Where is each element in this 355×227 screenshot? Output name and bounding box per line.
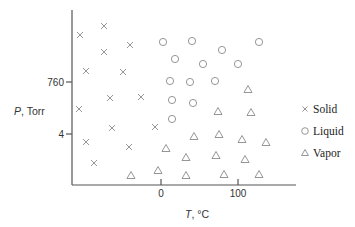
y-tick-label-760: 760 — [47, 77, 64, 88]
solid-point — [127, 42, 133, 48]
liquid-point — [159, 38, 166, 45]
solid-point — [91, 160, 97, 166]
vapor-point — [162, 145, 170, 152]
x-tick-label-0: 0 — [158, 188, 164, 199]
liquid-point — [188, 37, 195, 44]
data-markers — [76, 23, 270, 179]
vapor-point — [182, 172, 190, 179]
legend-item-vapor: Vapor — [302, 147, 341, 160]
liquid-point — [168, 96, 175, 103]
triangle-icon — [302, 150, 309, 156]
solid-point — [138, 94, 144, 100]
legend-item-liquid: Liquid — [302, 125, 344, 138]
solid-point — [126, 144, 132, 150]
solid-point — [83, 68, 89, 74]
vapor-point — [262, 139, 270, 146]
vapor-point — [190, 133, 198, 140]
cross-icon — [303, 107, 308, 112]
solid-point — [152, 124, 158, 130]
vapor-point — [241, 156, 249, 163]
liquid-point — [234, 60, 241, 67]
y-axis-title: P, Torr — [14, 105, 45, 117]
solid-point — [76, 106, 82, 112]
legend-item-solid: Solid — [303, 103, 338, 115]
solid-point — [83, 139, 89, 145]
legend: Solid Liquid Vapor — [302, 103, 344, 160]
svg-text:Solid: Solid — [313, 103, 338, 115]
vapor-point — [220, 171, 228, 178]
svg-text:Vapor: Vapor — [313, 147, 341, 160]
vapor-point — [244, 86, 252, 93]
vapor-point — [238, 136, 246, 143]
liquid-point — [186, 78, 193, 85]
solid-point — [109, 125, 115, 131]
liquid-point — [218, 46, 225, 53]
vapor-point — [127, 172, 135, 179]
solid-point — [101, 23, 107, 29]
solid-point — [77, 32, 83, 38]
liquid-point — [168, 115, 175, 122]
y-tick-label-4: 4 — [58, 129, 64, 140]
x-axis-title: T, °C — [185, 208, 209, 220]
liquid-point — [189, 99, 196, 106]
vapor-point — [154, 167, 162, 174]
x-tick-label-100: 100 — [230, 188, 247, 199]
liquid-point — [199, 60, 206, 67]
vapor-point — [212, 152, 220, 159]
vapor-point — [214, 108, 222, 115]
solid-point — [120, 69, 126, 75]
solid-point — [101, 49, 107, 55]
liquid-point — [171, 55, 178, 62]
vapor-point — [247, 109, 255, 116]
vapor-point — [182, 154, 190, 161]
circle-icon — [302, 128, 309, 135]
vapor-point — [255, 171, 263, 178]
solid-point — [107, 95, 113, 101]
phase-scatter-chart: 760 4 0 100 P, Torr T, °C Solid Liquid V… — [0, 0, 355, 227]
liquid-point — [211, 77, 218, 84]
svg-text:Liquid: Liquid — [313, 125, 344, 138]
liquid-point — [166, 77, 173, 84]
vapor-point — [215, 131, 223, 138]
liquid-point — [255, 38, 262, 45]
